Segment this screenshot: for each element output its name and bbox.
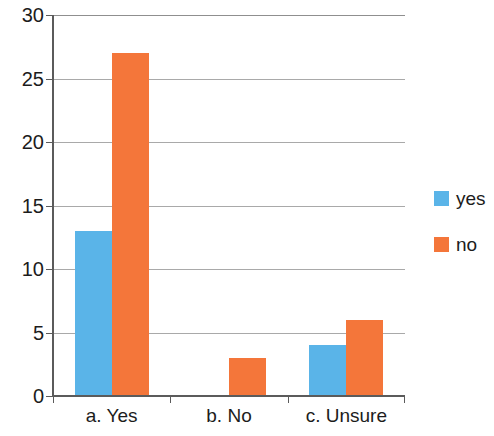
bar-yes-2[interactable] (309, 345, 346, 396)
bar-yes-0[interactable] (75, 231, 112, 396)
bar-group (288, 15, 405, 396)
chart-legend: yes no (434, 188, 494, 280)
bar-no-1[interactable] (229, 358, 266, 396)
x-axis-label-0: a. Yes (86, 406, 138, 425)
y-axis-labels: 051015202530 (0, 15, 44, 396)
plot-area (53, 15, 405, 396)
y-axis-label-0: 0 (33, 386, 44, 406)
bar-group (53, 15, 170, 396)
legend-swatch-yes-icon (434, 191, 449, 206)
legend-swatch-no-icon (434, 237, 449, 252)
x-axis-line (53, 395, 405, 397)
bar-group (170, 15, 287, 396)
x-axis-label-2: c. Unsure (306, 406, 387, 425)
y-axis-label-5: 5 (33, 323, 44, 343)
y-axis-label-30: 30 (22, 5, 44, 25)
bar-chart: 051015202530 a. Yesb. Noc. Unsure yes no (0, 0, 494, 436)
y-axis-label-25: 25 (22, 69, 44, 89)
y-axis-label-20: 20 (22, 132, 44, 152)
bar-no-2[interactable] (346, 320, 383, 396)
y-axis-line (52, 15, 54, 397)
legend-label-yes: yes (456, 189, 486, 208)
bar-no-0[interactable] (112, 53, 149, 396)
y-axis-label-15: 15 (22, 196, 44, 216)
legend-label-no: no (456, 235, 477, 254)
x-axis-labels: a. Yesb. Noc. Unsure (53, 398, 405, 436)
y-axis-label-10: 10 (22, 259, 44, 279)
legend-item-no[interactable]: no (434, 234, 494, 254)
legend-item-yes[interactable]: yes (434, 188, 494, 208)
x-axis-label-1: b. No (206, 406, 251, 425)
